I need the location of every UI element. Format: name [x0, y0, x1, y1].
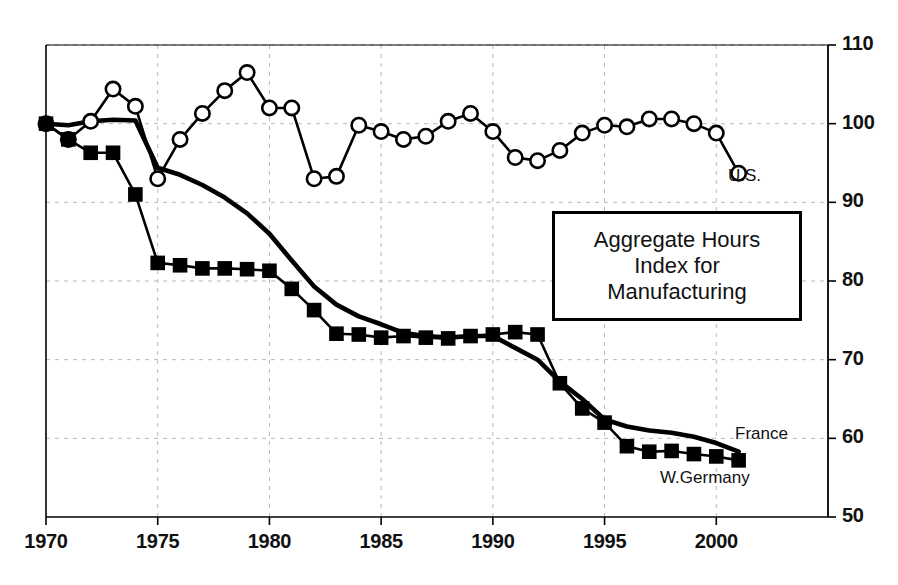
series-label-us: U.S. — [728, 166, 761, 186]
chart-figure: 5060708090100110 19701975198019851990199… — [0, 0, 898, 585]
series-label-west-germany: W.Germany — [660, 468, 750, 488]
x-tick-1970: 1970 — [16, 530, 76, 553]
series-label-france: France — [735, 424, 788, 444]
y-tick-90: 90 — [842, 189, 864, 212]
x-tick-1995: 1995 — [575, 530, 635, 553]
y-tick-110: 110 — [842, 32, 873, 55]
y-tick-80: 80 — [842, 268, 864, 291]
x-tick-1975: 1975 — [128, 530, 188, 553]
caption-line-1: Aggregate Hours — [594, 227, 760, 253]
caption-line-2: Index for — [634, 253, 720, 279]
x-tick-1990: 1990 — [463, 530, 523, 553]
y-tick-70: 70 — [842, 347, 864, 370]
x-tick-1985: 1985 — [351, 530, 411, 553]
x-tick-1980: 1980 — [239, 530, 299, 553]
y-tick-100: 100 — [842, 111, 874, 134]
y-tick-60: 60 — [842, 425, 864, 448]
x-tick-2000: 2000 — [686, 530, 746, 553]
caption-box: Aggregate Hours Index for Manufacturing — [552, 211, 802, 321]
caption-line-3: Manufacturing — [607, 279, 746, 305]
y-tick-50: 50 — [842, 504, 864, 527]
